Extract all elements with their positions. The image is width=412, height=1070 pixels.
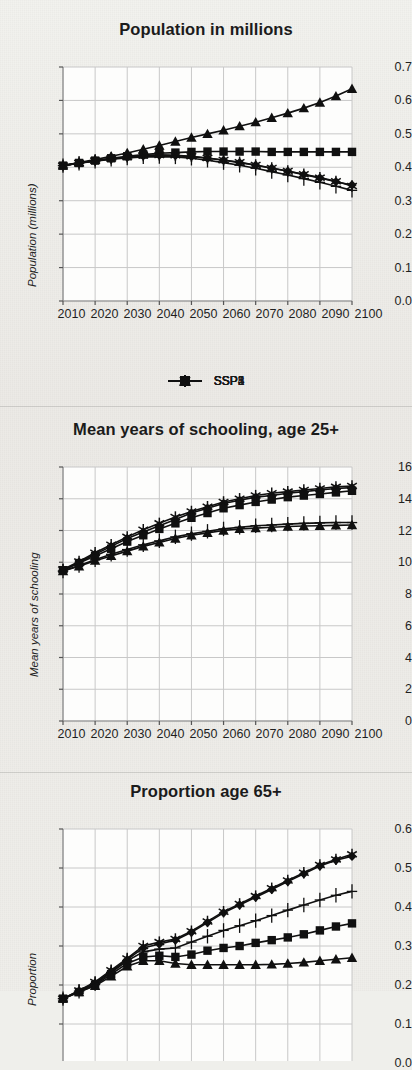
x-tick-label: 2100 xyxy=(352,727,385,741)
y-tick-label: 0.4 xyxy=(356,160,412,174)
x-tick-label: 2060 xyxy=(220,727,253,741)
chart-panel-population: Population in millions Population (milli… xyxy=(0,20,412,329)
x-tick-label: 2100 xyxy=(352,307,385,321)
x-axis-ticks-schooling: 2010202020302040205020602070208020902100 xyxy=(55,727,385,741)
chart-panel-schooling: Mean years of schooling, age 25+ Mean ye… xyxy=(0,420,412,749)
x-tick-label: 2070 xyxy=(253,307,286,321)
legend-item-ssp5[interactable]: SSP5 xyxy=(0,374,412,388)
chart-title-population: Population in millions xyxy=(0,20,412,39)
chart-panel-proportion65: Proportion age 65+ Proportion 0.00.10.20… xyxy=(0,782,412,1061)
plot-area-schooling: Mean years of schooling 0246810121416 20… xyxy=(0,439,412,749)
x-tick-label: 2050 xyxy=(187,307,220,321)
y-tick-label: 0.6 xyxy=(356,93,412,107)
y-tick-label: 0.2 xyxy=(356,978,412,992)
y-tick-label: 0.0 xyxy=(356,1056,412,1070)
y-tick-label: 0.5 xyxy=(356,861,412,875)
y-tick-label: 0.7 xyxy=(356,60,412,74)
y-axis-label-schooling: Mean years of schooling xyxy=(28,552,40,677)
x-tick-label: 2080 xyxy=(286,727,319,741)
chart-title-schooling: Mean years of schooling, age 25+ xyxy=(0,420,412,439)
x-tick-label: 2060 xyxy=(220,307,253,321)
y-tick-label: 12 xyxy=(356,524,412,538)
x-tick-label: 2020 xyxy=(88,727,121,741)
x-tick-label: 2010 xyxy=(55,307,88,321)
y-axis-label-population: Population (millions) xyxy=(26,183,38,287)
chart-title-proportion65: Proportion age 65+ xyxy=(0,782,412,801)
x-tick-label: 2050 xyxy=(187,727,220,741)
y-tick-label: 0.1 xyxy=(356,261,412,275)
y-tick-label: 8 xyxy=(356,587,412,601)
y-tick-label: 0.3 xyxy=(356,194,412,208)
panel-divider-1 xyxy=(0,406,412,407)
y-tick-label: 0.1 xyxy=(356,1017,412,1031)
x-tick-label: 2020 xyxy=(88,307,121,321)
plot-area-population: Population (millions) 0.00.10.20.30.40.5… xyxy=(0,39,412,329)
x-tick-label: 2010 xyxy=(55,727,88,741)
y-tick-label: 0.2 xyxy=(356,227,412,241)
y-tick-label: 0.0 xyxy=(356,294,412,308)
y-tick-label: 4 xyxy=(356,651,412,665)
y-tick-label: 10 xyxy=(356,555,412,569)
schooling-series-svg xyxy=(0,439,412,749)
x-axis-ticks-population: 2010202020302040205020602070208020902100 xyxy=(55,307,385,321)
y-tick-label: 6 xyxy=(356,619,412,633)
panel-divider-2 xyxy=(0,772,412,773)
y-tick-label: 0 xyxy=(356,714,412,728)
x-tick-label: 2030 xyxy=(121,307,154,321)
legend-label-ssp5: SSP5 xyxy=(214,374,245,388)
y-tick-label: 0.5 xyxy=(356,127,412,141)
plot-area-proportion65: Proportion 0.00.10.20.30.40.50.6 xyxy=(0,801,412,1061)
x-tick-label: 2090 xyxy=(319,727,352,741)
x-tick-label: 2070 xyxy=(253,727,286,741)
y-tick-label: 14 xyxy=(356,492,412,506)
y-tick-label: 0.6 xyxy=(356,822,412,836)
x-tick-label: 2030 xyxy=(121,727,154,741)
x-tick-label: 2040 xyxy=(154,727,187,741)
y-tick-label: 0.4 xyxy=(356,900,412,914)
y-tick-label: 2 xyxy=(356,682,412,696)
x-tick-label: 2040 xyxy=(154,307,187,321)
y-axis-label-proportion65: Proportion xyxy=(26,953,38,1006)
y-tick-label: 0.3 xyxy=(356,939,412,953)
y-tick-label: 16 xyxy=(356,460,412,474)
population-series-svg xyxy=(0,39,412,329)
x-tick-label: 2090 xyxy=(319,307,352,321)
proportion65-series-svg xyxy=(0,801,412,1061)
x-tick-label: 2080 xyxy=(286,307,319,321)
asterisk-icon xyxy=(168,374,202,388)
